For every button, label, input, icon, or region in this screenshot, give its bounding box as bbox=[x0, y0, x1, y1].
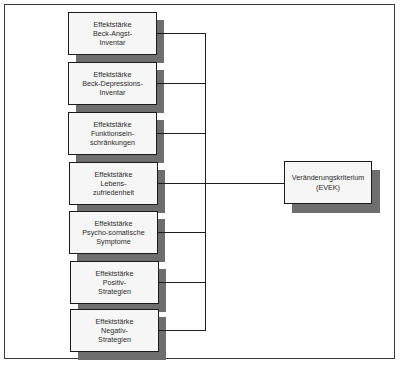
node-label-line: Funktionsein- bbox=[91, 129, 134, 138]
node-label-line: Symptome bbox=[96, 237, 130, 246]
connector-line bbox=[158, 183, 284, 184]
node-label-line: Effektstärke bbox=[95, 219, 133, 228]
node-label-line: Effektstärke bbox=[96, 269, 134, 278]
node-box: Effektstärke Lebens- zufriedenheit bbox=[69, 162, 158, 205]
node-box: Effektstärke Negativ- Strategien bbox=[70, 309, 159, 352]
node-box: Veränderungskriterium (EVEK) bbox=[284, 161, 372, 204]
node-box: Effektstärke Positiv- Strategien bbox=[70, 261, 159, 304]
node-label-line: Veränderungskriterium bbox=[292, 173, 364, 182]
node-box: Effektstärke Beck-Depressions- Inventar bbox=[68, 62, 157, 105]
node-label-line: (EVEK) bbox=[316, 183, 340, 192]
connector-line bbox=[157, 83, 206, 84]
node-label-line: Effektstärke bbox=[96, 317, 134, 326]
node-label-line: zufriedenheit bbox=[93, 188, 134, 197]
node-box: Effektstärke Beck-Angst- Inventar bbox=[68, 12, 157, 55]
node-label-line: Strategien bbox=[98, 335, 131, 344]
node-label-line: Lebens- bbox=[101, 179, 127, 188]
node-label-line: Negativ- bbox=[101, 326, 128, 335]
node-label-line: Inventar bbox=[100, 38, 126, 47]
connector-line bbox=[157, 133, 206, 134]
node-label-line: Psycho-somatische bbox=[82, 228, 144, 237]
connector-line bbox=[159, 330, 206, 331]
node-label-line: Effektstärke bbox=[95, 170, 133, 179]
node-label-line: Strategien bbox=[98, 287, 131, 296]
node-box: Effektstärke Psycho-somatische Symptome bbox=[69, 211, 158, 254]
node-box: Effektstärke Funktionsein- schränkungen bbox=[68, 112, 157, 155]
node-label-line: Beck-Angst- bbox=[93, 29, 132, 38]
node-label-line: schränkungen bbox=[90, 138, 135, 147]
node-label-line: Positiv- bbox=[103, 278, 127, 287]
node-label-line: Inventar bbox=[100, 88, 126, 97]
connector-bus bbox=[205, 33, 206, 331]
connector-line bbox=[159, 282, 206, 283]
node-label-line: Effektstärke bbox=[94, 120, 132, 129]
node-label-line: Effektstärke bbox=[94, 70, 132, 79]
node-label-line: Effektstärke bbox=[94, 20, 132, 29]
connector-line bbox=[157, 33, 206, 34]
node-label-line: Beck-Depressions- bbox=[82, 79, 143, 88]
connector-line bbox=[158, 232, 206, 233]
